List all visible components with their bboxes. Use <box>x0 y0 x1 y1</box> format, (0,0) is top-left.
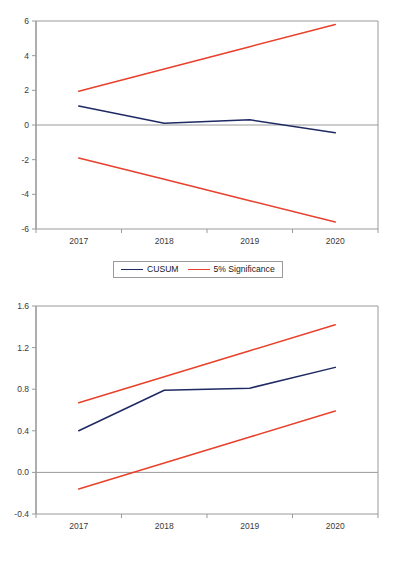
svg-text:2019: 2019 <box>240 236 259 246</box>
legend-item-significance: 5% Significance <box>188 265 275 274</box>
svg-text:1.6: 1.6 <box>17 301 29 311</box>
svg-text:-0.4: -0.4 <box>14 509 29 519</box>
svg-text:0.8: 0.8 <box>17 384 29 394</box>
svg-text:2017: 2017 <box>69 521 88 531</box>
svg-text:0: 0 <box>24 120 29 130</box>
svg-text:2020: 2020 <box>326 236 345 246</box>
cusum-chart: 6420-2-4-62017201820192020 CUSUM 5% Sign… <box>0 0 393 290</box>
svg-text:2019: 2019 <box>240 521 259 531</box>
legend-label-cusum: CUSUM <box>147 265 179 274</box>
svg-text:0.4: 0.4 <box>17 426 29 436</box>
svg-text:-2: -2 <box>21 155 29 165</box>
svg-text:2018: 2018 <box>155 521 174 531</box>
svg-text:0.0: 0.0 <box>17 467 29 477</box>
svg-text:6: 6 <box>24 16 29 26</box>
cusum-of-squares-plot-area: 1.61.20.80.40.0-0.42017201820192020 <box>0 285 393 535</box>
cusum-legend: CUSUM 5% Significance <box>113 261 283 278</box>
cusum-of-squares-chart: 1.61.20.80.40.0-0.42017201820192020 CUSU… <box>0 285 393 575</box>
cusum-plot-area: 6420-2-4-62017201820192020 <box>0 0 393 250</box>
svg-text:2017: 2017 <box>69 236 88 246</box>
legend-line-icon-significance <box>188 269 210 270</box>
legend-line-icon-cusum <box>121 269 143 270</box>
svg-text:-4: -4 <box>21 189 29 199</box>
cusum-plot-svg: 6420-2-4-62017201820192020 <box>0 0 393 250</box>
svg-text:2020: 2020 <box>326 521 345 531</box>
svg-text:2: 2 <box>24 85 29 95</box>
svg-text:1.2: 1.2 <box>17 343 29 353</box>
svg-text:-6: -6 <box>21 224 29 234</box>
svg-text:4: 4 <box>24 51 29 61</box>
legend-item-cusum: CUSUM <box>121 265 179 274</box>
legend-label-significance: 5% Significance <box>214 265 275 274</box>
figure-container: 6420-2-4-62017201820192020 CUSUM 5% Sign… <box>0 0 393 575</box>
svg-text:2018: 2018 <box>155 236 174 246</box>
cusum-of-squares-plot-svg: 1.61.20.80.40.0-0.42017201820192020 <box>0 285 393 535</box>
